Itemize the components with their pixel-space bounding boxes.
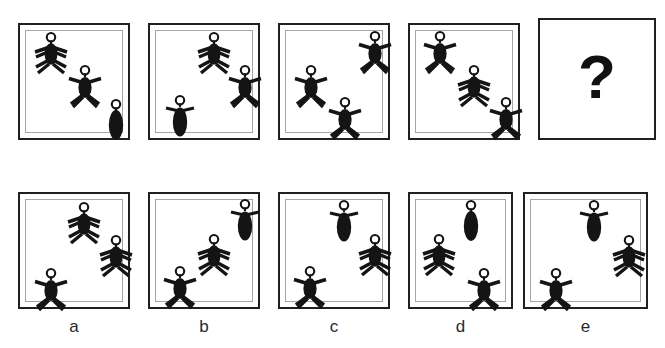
- panel-stage: [410, 25, 518, 138]
- figure-matrix-puzzle: ?abcde: [0, 0, 665, 348]
- figure-arms-up: [289, 265, 331, 311]
- question-mark: ?: [540, 46, 654, 108]
- panel-option-a[interactable]: [18, 192, 130, 309]
- panel-stage: [410, 194, 511, 307]
- figure-arms-up: [30, 267, 72, 313]
- panel-stage: [280, 25, 388, 138]
- option-label-b[interactable]: b: [148, 318, 260, 335]
- panel-option-b[interactable]: [148, 192, 260, 309]
- figure-arms-up: [463, 267, 505, 313]
- figure-arms-up: [485, 96, 527, 142]
- option-label-e[interactable]: e: [523, 318, 648, 335]
- panel-stimulus-2: [148, 23, 260, 140]
- figure-arms-down: [418, 233, 460, 279]
- option-label-c[interactable]: c: [278, 318, 390, 335]
- figure-arms-down: [608, 234, 650, 280]
- panel-option-d[interactable]: [408, 192, 513, 309]
- panel-stage: [150, 194, 258, 307]
- panel-stimulus-3: [278, 23, 390, 140]
- figure-arms-up: [535, 267, 577, 313]
- panel-option-e[interactable]: [523, 192, 648, 309]
- panel-stimulus-4: [408, 23, 520, 140]
- panel-stage: ?: [540, 20, 654, 138]
- figure-arms-up: [224, 64, 266, 110]
- figure-arms-up: [354, 30, 396, 76]
- panel-stage: [525, 194, 646, 307]
- panel-stage: [20, 25, 128, 138]
- panel-stage: [150, 25, 258, 138]
- figure-oval-arms: [159, 94, 201, 140]
- panel-option-c[interactable]: [278, 192, 390, 309]
- panel-stage: [280, 194, 388, 307]
- option-label-a[interactable]: a: [18, 318, 130, 335]
- panel-stage: [20, 194, 128, 307]
- figure-oval: [95, 98, 137, 144]
- figure-arms-up: [324, 96, 366, 142]
- panel-stimulus-question: ?: [538, 18, 656, 140]
- figure-arms-down: [95, 234, 137, 280]
- figure-arms-down: [354, 233, 396, 279]
- option-label-d[interactable]: d: [408, 318, 513, 335]
- figure-arms-up: [159, 265, 201, 311]
- panel-stimulus-1: [18, 23, 130, 140]
